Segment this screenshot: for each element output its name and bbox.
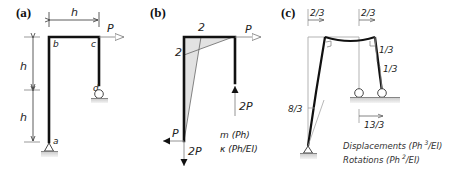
- rot-right-upper-label: 1/3: [379, 45, 394, 55]
- panel-c: (c) 2/3 2/3 1/3 1/3 8/3 13/3: [281, 5, 442, 165]
- ground-hatch: [91, 99, 108, 103]
- dim-vertical-upper-label: h: [20, 60, 27, 73]
- frame-structure: [49, 37, 99, 142]
- roller-support-icon: [95, 90, 104, 99]
- disp-roller-label: 13/3: [364, 120, 384, 130]
- legend-rotations: Rotations (Ph2/EI): [343, 153, 420, 165]
- panel-a: (a) h h h P b c d a: [16, 5, 124, 157]
- ground-hatch: [300, 154, 317, 159]
- deformed-beam: [325, 37, 375, 41]
- pin-support-icon: [304, 146, 313, 153]
- legend-moment: m (Ph): [220, 130, 250, 140]
- rigid-joint-marker: [326, 41, 331, 47]
- reaction-horizontal-label: P: [172, 127, 179, 140]
- legend-displacements: Displacements (Ph3/EI): [343, 139, 442, 151]
- ground-hatch: [41, 152, 58, 157]
- load-label: P: [245, 23, 252, 36]
- panel-a-label: (a): [16, 5, 31, 20]
- roller-displaced-icon: [378, 89, 387, 98]
- roller-original-icon: [355, 89, 364, 98]
- panel-b-label: (b): [150, 5, 166, 20]
- moment-left-value: 2: [175, 46, 182, 59]
- ground-hatch: [350, 98, 400, 103]
- node-b-label: b: [53, 39, 59, 49]
- rot-right-lower-label: 1/3: [383, 64, 398, 74]
- dim-vertical-lower-label: h: [20, 111, 27, 124]
- node-c-label: c: [91, 39, 96, 49]
- disp-top-left-label: 2/3: [310, 8, 325, 18]
- frame-analysis-diagram: (a) h h h P b c d a (b): [0, 0, 461, 174]
- node-a-label: a: [53, 136, 59, 146]
- load-label: P: [107, 22, 114, 35]
- rot-left-label: 8/3: [288, 104, 303, 114]
- reaction-vertical-label: 2P: [188, 145, 202, 158]
- deformed-left-column: [308, 37, 325, 146]
- reaction-roller-label: 2P: [239, 100, 253, 113]
- rigid-joint-marker: [370, 41, 375, 46]
- legend-curvature: κ (Ph/EI): [220, 144, 258, 154]
- dim-horizontal-label: h: [71, 6, 78, 19]
- panel-b: (b) 2 2 P 2P P 2P m (Ph) κ (Ph/EI): [150, 5, 261, 166]
- panel-c-label: (c): [281, 5, 295, 20]
- disp-top-right-label: 2/3: [361, 8, 376, 18]
- moment-top-value: 2: [198, 21, 205, 34]
